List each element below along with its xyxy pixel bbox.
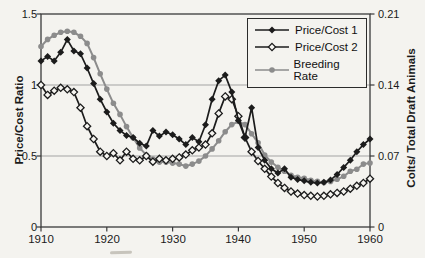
legend-item-breeding-rate: Breeding Rate — [254, 58, 364, 82]
x-axis-tick-1920: 1920 — [89, 232, 125, 246]
left-axis-tick-1-5: 1.5 — [6, 7, 37, 21]
legend-item-label: Price/Cost 1 — [295, 24, 358, 36]
x-axis-tick-1910: 1910 — [23, 232, 59, 246]
legend-item-label: Price/Cost 2 — [295, 41, 358, 53]
gray-circle-series-icon — [254, 64, 289, 76]
chart-figure: 1.5 1 0.5 0 0.21 0.14 0.07 0 1910 1920 1… — [0, 0, 425, 258]
legend-item-price-cost-1: Price/Cost 1 — [254, 24, 364, 36]
left-axis-title: Price/Cost Ratio — [13, 65, 25, 175]
right-axis-tick-0-21: 0.21 — [378, 7, 418, 21]
right-axis-title: Colts/ Total Draft Animals — [405, 48, 417, 188]
open-diamond-series-icon — [254, 41, 290, 53]
x-axis-tick-1950: 1950 — [286, 232, 322, 246]
filled-diamond-series-icon — [254, 24, 290, 36]
x-axis-tick-1960: 1960 — [352, 232, 388, 246]
x-axis-tick-1930: 1930 — [155, 232, 191, 246]
x-axis-tick-1940: 1940 — [220, 232, 256, 246]
legend-item-label: Breeding Rate — [294, 58, 364, 82]
legend: Price/Cost 1 Price/Cost 2 Breeding Rate — [247, 18, 367, 88]
legend-item-price-cost-2: Price/Cost 2 — [254, 41, 364, 53]
